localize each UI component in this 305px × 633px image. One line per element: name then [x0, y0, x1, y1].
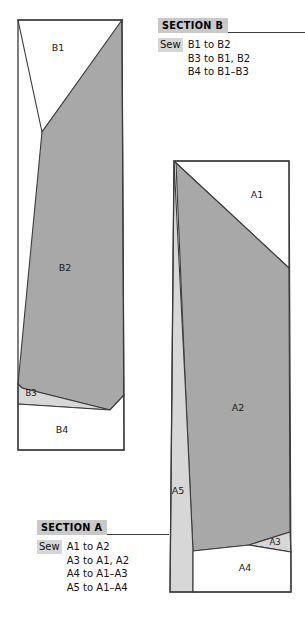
section-a-title: SECTION A [37, 516, 169, 535]
section-a-sew-label: Sew [37, 540, 62, 554]
piece-label-b1: B1 [52, 42, 65, 53]
piece-label-b4: B4 [56, 424, 69, 435]
sew-line: A5 to A1–A4 [67, 581, 129, 595]
section-b-title-label: SECTION B [158, 18, 228, 33]
piece-label-b2: B2 [59, 262, 72, 273]
section-b-sew-lines: B1 to B2 B3 to B1, B2 B4 to B1–B3 [188, 38, 250, 79]
section-a-sew-lines: A1 to A2 A3 to A1, A2 A4 to A1–A3 A5 to … [67, 540, 129, 594]
section-a-instructions: Sew A1 to A2 A3 to A1, A2 A4 to A1–A3 A5… [37, 540, 169, 594]
piece-label-b3: B3 [25, 388, 36, 398]
sew-line: A4 to A1–A3 [67, 567, 129, 581]
sew-line: B1 to B2 [188, 38, 250, 52]
section-b-instructions: Sew B1 to B2 B3 to B1, B2 B4 to B1–B3 [158, 38, 305, 79]
section-a-title-label: SECTION A [37, 520, 107, 535]
piece-label-a5: A5 [172, 485, 185, 496]
section-b-sew-label: Sew [158, 38, 183, 52]
piece-label-a3: A3 [269, 537, 280, 547]
piece-label-a2: A2 [232, 402, 245, 413]
sew-line: A1 to A2 [67, 540, 129, 554]
section-b-title: SECTION B [158, 14, 305, 33]
sew-line: B4 to B1–B3 [188, 65, 250, 79]
section-a-block: SECTION A Sew A1 to A2 A3 to A1, A2 A4 t… [37, 516, 169, 594]
section-b-block: SECTION B Sew B1 to B2 B3 to B1, B2 B4 t… [158, 14, 305, 79]
sew-line: B3 to B1, B2 [188, 52, 250, 66]
sew-line: A3 to A1, A2 [67, 554, 129, 568]
piece-label-a4: A4 [239, 562, 252, 573]
pattern-block-a: A1 A2 A3 A4 A5 [170, 161, 291, 592]
pattern-block-b: B1 B2 B3 B4 [18, 20, 124, 450]
piece-label-a1: A1 [251, 189, 264, 200]
